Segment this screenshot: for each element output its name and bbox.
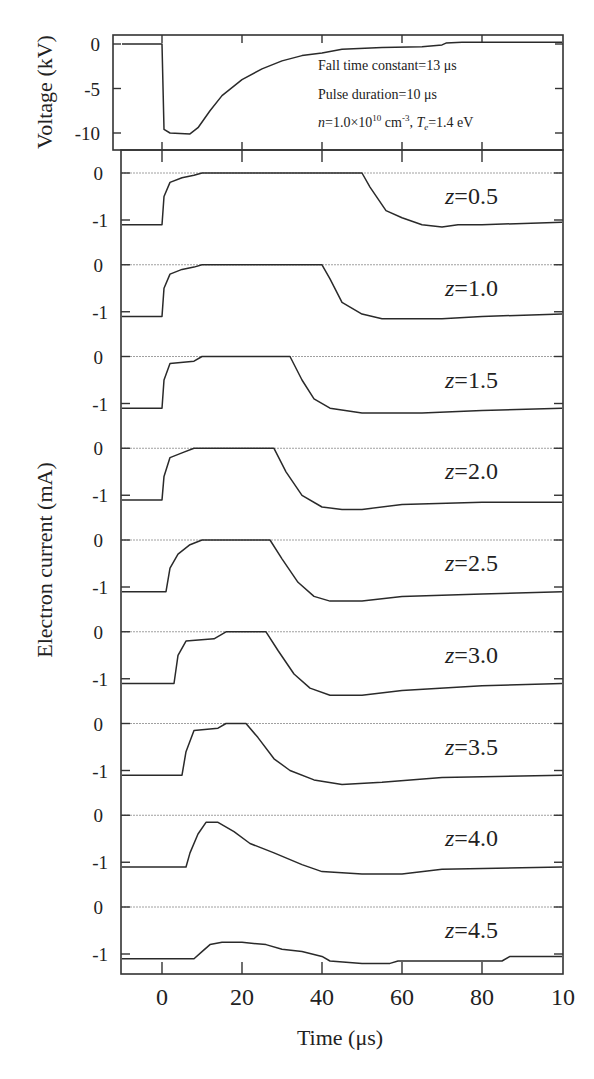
- current-tick-label-zero: 0: [94, 622, 104, 643]
- current-tick-label-zero: 0: [94, 714, 104, 735]
- z-label: z=3.5: [444, 734, 498, 760]
- current-tick-label-zero: 0: [94, 805, 104, 826]
- z-labels: z=0.5z=1.0z=1.5z=2.0z=2.5z=3.0z=3.5z=4.0…: [444, 183, 498, 943]
- current-tick-label-minus1: -1: [92, 852, 108, 873]
- z-label: z=4.5: [444, 917, 498, 943]
- separator: ,: [409, 115, 416, 130]
- current-x-ticks: [162, 150, 482, 974]
- voltage-tick-label: 0: [91, 34, 101, 55]
- annotation-plasma-params: n=1.0×1010 cm-3, Te=1.4 eV: [318, 113, 473, 132]
- current-tick-label-minus1: -1: [92, 210, 108, 231]
- current-tick-label-zero: 0: [94, 530, 104, 551]
- density-symbol: n: [318, 115, 325, 130]
- current-tick-label-minus1: -1: [92, 577, 108, 598]
- voltage-tick-label: -5: [84, 79, 100, 100]
- x-tick-label: 60: [390, 984, 414, 1010]
- annotation-fall-time: Fall time constant=13 μs: [318, 58, 457, 73]
- current-tick-label-zero: 0: [94, 347, 104, 368]
- z-label: z=0.5: [444, 183, 498, 209]
- annotation-pulse-duration: Pulse duration=10 μs: [318, 87, 437, 102]
- current-tick-label-zero: 0: [94, 163, 104, 184]
- current-panel: 0-10-10-10-10-10-10-10-10-1 z=0.5z=1.0z=…: [32, 150, 563, 974]
- voltage-axis-title: Voltage (kV): [32, 35, 57, 149]
- current-tick-label-minus1: -1: [92, 394, 108, 415]
- current-tick-label-minus1: -1: [92, 944, 108, 965]
- temp-value: =1.4 eV: [428, 115, 473, 130]
- voltage-tick-label: -10: [75, 123, 100, 144]
- voltage-panel: 0-5-10 Fall time constant=13 μs Pulse du…: [32, 34, 563, 150]
- x-axis-title: Time (μs): [297, 1025, 383, 1050]
- x-tick-labels: 02040608010: [156, 984, 575, 1010]
- x-tick-label: 40: [310, 984, 334, 1010]
- current-tick-label-minus1: -1: [92, 302, 108, 323]
- current-tick-label-minus1: -1: [92, 761, 108, 782]
- x-tick-label: 20: [230, 984, 254, 1010]
- z-label: z=2.5: [444, 550, 498, 576]
- z-label: z=1.0: [444, 275, 498, 301]
- current-tick-label-zero: 0: [94, 255, 104, 276]
- current-tick-label-zero: 0: [94, 438, 104, 459]
- density-unit: cm: [381, 115, 402, 130]
- current-trace: [122, 942, 562, 963]
- current-tick-label-minus1: -1: [92, 485, 108, 506]
- x-tick-label: 80: [470, 984, 494, 1010]
- x-tick-label: 10: [551, 984, 575, 1010]
- z-label: z=4.0: [444, 825, 498, 851]
- z-label: z=2.0: [444, 458, 498, 484]
- z-label: z=1.5: [444, 367, 498, 393]
- z-label: z=3.0: [444, 642, 498, 668]
- figure: 0-5-10 Fall time constant=13 μs Pulse du…: [0, 0, 594, 1079]
- current-tick-label-zero: 0: [94, 897, 104, 918]
- density-value: =1.0×10: [325, 115, 372, 130]
- current-tick-label-minus1: -1: [92, 669, 108, 690]
- x-tick-label: 0: [156, 984, 168, 1010]
- current-axis-title: Electron current (mA): [32, 462, 57, 657]
